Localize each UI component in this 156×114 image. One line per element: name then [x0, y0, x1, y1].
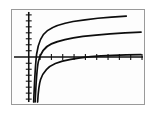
curve-lower	[38, 55, 141, 102]
plot-frame	[11, 9, 145, 105]
graph-image	[0, 0, 156, 114]
logarithm-graph	[12, 10, 144, 104]
curve-middle	[35, 32, 141, 102]
curve-upper	[34, 16, 127, 102]
